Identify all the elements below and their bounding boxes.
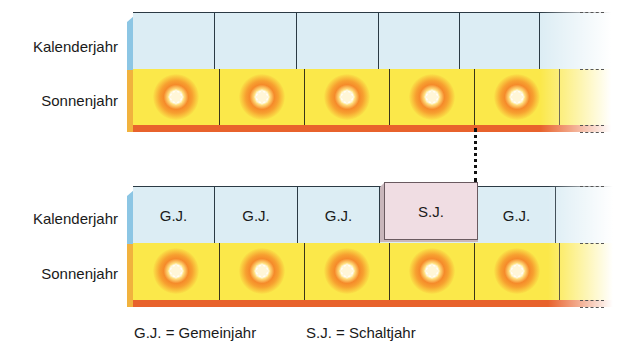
row-label-kalenderjahr-top: Kalenderjahr xyxy=(8,38,118,55)
sonnen-block xyxy=(305,69,390,125)
sonnen-block xyxy=(133,243,220,300)
kalender-block-gj: G.J. xyxy=(133,187,215,244)
legend-schaltjahr: S.J. = Schaltjahr xyxy=(306,324,416,341)
sonnen-block xyxy=(390,243,475,300)
kalender-block xyxy=(215,13,297,70)
row-label-sonnenjahr-top: Sonnenjahr xyxy=(8,92,118,109)
sun-icon xyxy=(153,74,199,120)
sonnen-block xyxy=(220,243,305,300)
kalender-block xyxy=(379,13,460,70)
fade-right xyxy=(540,10,629,134)
continuation-dash xyxy=(580,12,604,13)
sun-icon xyxy=(409,248,455,294)
sonnen-block xyxy=(133,69,220,125)
sonnen-block xyxy=(220,69,305,125)
continuation-dash xyxy=(580,300,604,301)
kalender-block-sj: S.J. xyxy=(384,182,478,240)
sun-icon xyxy=(409,74,455,120)
kalender-block-gj: G.J. xyxy=(298,187,380,244)
continuation-dash xyxy=(580,69,604,70)
kalender-row: G.J. G.J. G.J. G.J. xyxy=(133,186,613,245)
legend-gemeinjahr: G.J. = Gemeinjahr xyxy=(134,324,256,341)
row-label-sonnenjahr-bottom: Sonnenjahr xyxy=(8,265,118,282)
continuation-dash xyxy=(580,125,604,126)
sonnen-block xyxy=(390,69,475,125)
continuation-dash xyxy=(580,307,604,308)
continuation-dash xyxy=(580,132,604,133)
kalender-block-gj: G.J. xyxy=(478,187,556,244)
kalender-block xyxy=(133,13,215,70)
row-label-kalenderjahr-bottom: Kalenderjahr xyxy=(8,210,118,227)
sonnen-row xyxy=(133,243,613,300)
sun-icon xyxy=(494,248,540,294)
sun-icon xyxy=(494,74,540,120)
kalender-block-gj: G.J. xyxy=(215,187,298,244)
sun-icon xyxy=(324,74,370,120)
sun-icon xyxy=(324,248,370,294)
sun-icon xyxy=(239,248,285,294)
sonnen-strip xyxy=(133,300,613,307)
fade-right xyxy=(548,184,629,309)
continuation-dash xyxy=(580,186,604,187)
continuation-dash xyxy=(580,243,604,244)
dotted-connector xyxy=(474,128,477,182)
sonnen-block xyxy=(305,243,390,300)
sun-icon xyxy=(153,248,199,294)
kalender-block xyxy=(460,13,540,70)
kalender-block xyxy=(297,13,379,70)
sun-icon xyxy=(239,74,285,120)
